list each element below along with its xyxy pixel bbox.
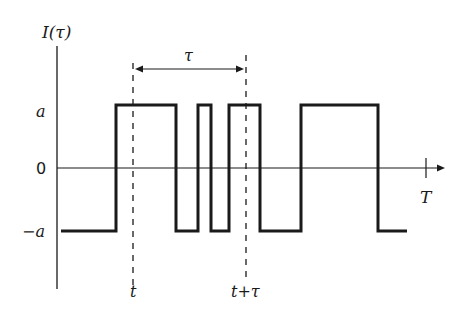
tick-label-high: a bbox=[36, 102, 46, 121]
marker-label-t: t bbox=[130, 282, 137, 301]
tick-label-low: −a bbox=[22, 222, 45, 241]
marker-label-t-plus-tau: t+τ bbox=[231, 282, 261, 301]
arrowhead-left-icon bbox=[135, 66, 143, 73]
x-axis-label: T bbox=[420, 187, 433, 207]
tick-label-zero: 0 bbox=[36, 159, 46, 178]
arrowhead-right-icon bbox=[236, 66, 244, 73]
telegraph-signal-diagram: I(τ) a 0 −a τ t t+τ T bbox=[0, 0, 468, 313]
y-axis-label: I(τ) bbox=[41, 22, 71, 42]
interval-label-tau: τ bbox=[184, 46, 194, 65]
x-axis-arrow-icon bbox=[437, 165, 445, 172]
